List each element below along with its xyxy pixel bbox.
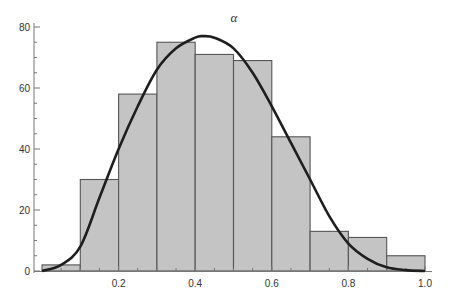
y-tick-label: 0 xyxy=(24,266,30,277)
histogram-chart: α 020406080 0.20.40.60.81.0 xyxy=(0,0,449,300)
y-ticks-group: 020406080 xyxy=(19,22,40,277)
y-tick-label: 40 xyxy=(19,144,31,155)
chart-title: α xyxy=(231,10,239,25)
x-tick-label: 1.0 xyxy=(418,278,432,289)
histogram-bar-1 xyxy=(80,180,118,272)
histogram-bar-2 xyxy=(119,94,157,271)
histogram-bar-5 xyxy=(234,61,272,271)
histogram-bar-3 xyxy=(157,42,195,271)
x-tick-label: 0.2 xyxy=(112,278,126,289)
x-tick-label: 0.6 xyxy=(265,278,279,289)
y-tick-label: 60 xyxy=(19,83,31,94)
y-tick-label: 80 xyxy=(19,22,31,33)
bars-group xyxy=(42,42,425,271)
x-tick-label: 0.4 xyxy=(188,278,202,289)
y-tick-label: 20 xyxy=(19,205,31,216)
histogram-bar-6 xyxy=(272,137,310,271)
histogram-bar-4 xyxy=(195,54,233,271)
x-tick-label: 0.8 xyxy=(341,278,355,289)
